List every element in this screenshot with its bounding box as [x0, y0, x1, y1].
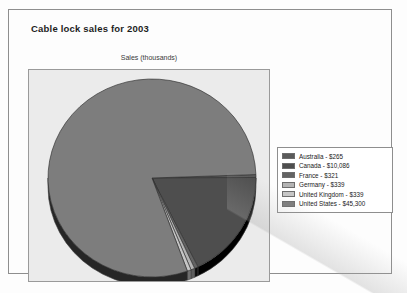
legend-item[interactable]: United Kingdom - $339 — [282, 190, 388, 199]
legend-label-france: France - $321 — [299, 171, 338, 180]
legend-label-germany: Germany - $339 — [299, 180, 345, 189]
legend-label-australia: Australia - $265 — [299, 152, 343, 161]
plot-area — [28, 69, 270, 282]
legend-item[interactable]: United States - $45,300 — [282, 199, 388, 208]
legend-item[interactable]: Canada - $10,086 — [282, 161, 388, 170]
pie-chart-svg — [29, 70, 269, 281]
legend-item[interactable]: Germany - $339 — [282, 180, 388, 189]
legend-swatch-united-states — [282, 201, 295, 207]
chart-subtitle: Sales (thousands) — [9, 54, 289, 61]
legend-swatch-australia — [282, 153, 295, 159]
legend-swatch-canada — [282, 163, 295, 169]
legend-label-canada: Canada - $10,086 — [299, 161, 349, 170]
pie-chart — [29, 70, 269, 281]
chart-title: Cable lock sales for 2003 — [31, 23, 149, 34]
pie-slices — [48, 79, 256, 277]
chart-legend: Australia - $265 Canada - $10,086 France… — [277, 147, 393, 213]
legend-swatch-united-kingdom — [282, 191, 295, 197]
legend-label-united-kingdom: United Kingdom - $339 — [299, 190, 363, 199]
legend-item[interactable]: Australia - $265 — [282, 152, 388, 161]
legend-label-united-states: United States - $45,300 — [299, 199, 365, 208]
legend-swatch-france — [282, 172, 295, 178]
legend-item[interactable]: France - $321 — [282, 171, 388, 180]
legend-swatch-germany — [282, 182, 295, 188]
chart-frame: Cable lock sales for 2003 Sales (thousan… — [8, 9, 392, 274]
pie-depth-united-kingdom — [187, 270, 191, 280]
